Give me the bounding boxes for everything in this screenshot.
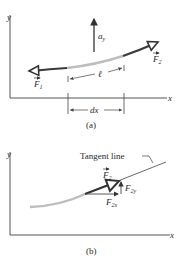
length-dimension-line [70,74,95,79]
force-f2-label: F2 [152,53,162,65]
panel-b-caption: (b) [86,246,97,256]
y-axis-label: y [6,12,11,22]
component-f2y-label: F2y [124,183,137,194]
dx-label: dx [90,105,99,115]
tangent-label-leader [142,156,153,163]
component-f2x-label: F2x [105,197,118,208]
x-axis-label: x [169,230,174,240]
force-f2-arrow-icon [148,42,158,47]
force-f2-label: F2 [102,169,112,181]
svg-text:F2: F2 [152,54,162,65]
panel-b: y x Tangent line F2 F2y F2x (b) [6,149,174,256]
svg-text:F1: F1 [33,79,43,90]
force-f2-arrow-icon [85,181,119,194]
panel-a: y x ay F1 F2 ℓ dx (a) [6,12,172,130]
x-axis-label: x [167,93,172,103]
panel-a-caption: (a) [86,120,96,130]
force-f1-arrow-icon [29,71,40,72]
acceleration-label: ay [98,31,106,42]
tangent-line-label: Tangent line [80,151,125,161]
length-label: ℓ [98,69,102,79]
string-element [30,194,85,207]
y-axis-label: y [6,149,11,159]
string-element-force-diagram: y x ay F1 F2 ℓ dx (a) [0,0,191,266]
force-f1-label: F1 [33,78,43,90]
svg-text:F2: F2 [102,170,112,181]
string-element [67,56,123,68]
